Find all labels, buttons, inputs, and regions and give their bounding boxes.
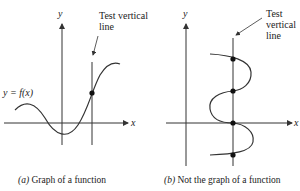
panel-a-y-label: y <box>58 8 62 19</box>
panel-b-x-label: x <box>294 117 298 128</box>
panel-b-test-line-label-1: Test <box>266 8 283 19</box>
panel-a-graph <box>4 24 128 145</box>
panel-b-intersection-point-2 <box>230 88 235 93</box>
panel-b-test-line-label-3: line <box>266 30 281 41</box>
panel-b-y-label: y <box>183 8 187 19</box>
panel-b-intersection-point-1 <box>230 56 235 61</box>
panel-b-pointer-arrow <box>236 18 262 35</box>
panel-b-caption-letter: (b) <box>164 175 175 185</box>
panel-b-non-function-curve <box>210 54 253 155</box>
panel-b-intersection-point-4 <box>230 152 235 157</box>
panel-a-test-line-label-2: line <box>99 21 114 32</box>
panel-a-pointer-arrow <box>93 36 98 55</box>
panel-a-caption: (a) Graph of a function <box>18 175 106 185</box>
panel-a-caption-letter: (a) <box>18 175 29 185</box>
panel-b-intersection-point-3 <box>230 120 235 125</box>
panel-a-test-line-label-1: Test vertical <box>99 10 148 21</box>
panel-a-function-curve <box>15 63 120 134</box>
panel-a-intersection-point <box>89 90 94 95</box>
panel-b-caption-text: Not the graph of a function <box>175 175 281 185</box>
panel-a-function-label: y = f(x) <box>3 87 33 98</box>
diagram-canvas <box>0 0 300 191</box>
panel-a-caption-text: Graph of a function <box>29 175 106 185</box>
panel-a-x-label: x <box>131 117 135 128</box>
panel-b-test-line-label-2: vertical <box>266 19 296 30</box>
panel-b-caption: (b) Not the graph of a function <box>164 175 281 185</box>
